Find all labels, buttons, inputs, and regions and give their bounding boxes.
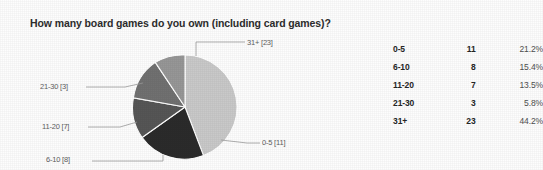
table-row: 31+ 23 44.2% [393,112,543,130]
pie-label-21-30: 21-30 [3] [40,82,68,91]
leader-line-6-10 [92,155,163,161]
table-row: 11-20 7 13.5% [393,76,543,94]
row-count: 7 [448,76,476,94]
row-label: 21-30 [393,94,448,112]
leader-line-11-20 [88,122,137,127]
row-label: 31+ [393,112,448,130]
leader-line-31plus [196,42,245,56]
survey-result-figure: How many board games do you own (includi… [0,0,543,170]
pie-label-6-10: 6-10 [8] [46,155,70,164]
page-title: How many board games do you own (includi… [30,17,331,29]
row-label: 0-5 [393,40,448,58]
row-percent: 13.5% [476,76,543,94]
table-row: 6-10 8 15.4% [393,58,543,76]
pie-chart-svg [0,30,370,170]
pie-label-0-5: 0-5 [11] [262,138,285,147]
results-table: 0-5 11 21.2% 6-10 8 15.4% 11-20 7 13.5% … [393,40,543,130]
row-count: 3 [448,94,476,112]
row-label: 11-20 [393,76,448,94]
pie-label-11-20: 11-20 [7] [42,122,69,131]
leader-line-0-5 [221,140,260,143]
row-label: 6-10 [393,58,448,76]
row-count: 23 [448,112,476,130]
pie-chart: 31+ [23] 0-5 [11] 6-10 [8] 11-20 [7] 21-… [0,30,370,170]
leader-line-21-30 [86,83,143,87]
row-percent: 21.2% [476,40,543,58]
results-table-body: 0-5 11 21.2% 6-10 8 15.4% 11-20 7 13.5% … [393,40,543,130]
row-count: 8 [448,58,476,76]
pie-label-31plus: 31+ [23] [247,38,273,47]
table-row: 0-5 11 21.2% [393,40,543,58]
row-percent: 15.4% [476,58,543,76]
table-row: 21-30 3 5.8% [393,94,543,112]
row-percent: 44.2% [476,112,543,130]
row-percent: 5.8% [476,94,543,112]
row-count: 11 [448,40,476,58]
